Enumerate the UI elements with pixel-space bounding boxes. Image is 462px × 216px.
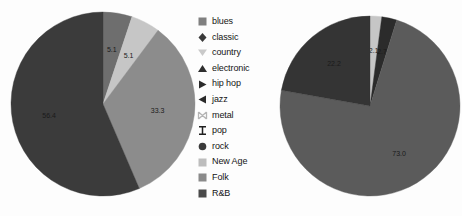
legend-item-label: metal (212, 108, 234, 124)
triangle-left-icon (197, 94, 208, 105)
pie-left-canvas: 5.15.133.356.4 (8, 0, 198, 216)
legend-item-folk[interactable]: Folk (197, 170, 279, 186)
pie-slice-value-label: 73.0 (392, 150, 406, 157)
pie-right-canvas: 2.12.773.022.2 (278, 0, 462, 216)
legend-item-label: blues (212, 14, 233, 30)
pie-slice-value-label: 22.2 (327, 60, 341, 67)
pie-slice-value-label: 56.4 (42, 112, 56, 119)
legend-item-hip-hop[interactable]: hip hop (197, 76, 279, 92)
circle-icon (197, 141, 208, 152)
legend-item-classic[interactable]: classic (197, 30, 279, 46)
legend-item-label: electronic (212, 61, 250, 77)
legend-item-electronic[interactable]: electronic (197, 61, 279, 77)
legend-item-blues[interactable]: blues (197, 14, 279, 30)
square-icon (197, 172, 208, 183)
legend-item-label: jazz (212, 92, 228, 108)
pie-slice-r-b[interactable] (281, 16, 370, 106)
hourglass-h-icon (197, 110, 208, 121)
legend-item-metal[interactable]: metal (197, 108, 279, 124)
pie-slice-value-label: 2.7 (377, 48, 387, 55)
square-icon (197, 16, 208, 27)
legend-item-label: rock (212, 139, 229, 155)
triangle-right-icon (197, 79, 208, 90)
legend-item-label: Folk (212, 170, 229, 186)
triangle-up-icon (197, 63, 208, 74)
legend-item-label: New Age (212, 154, 247, 170)
i-bar-icon (197, 125, 208, 136)
pie-chart-left: 5.15.133.356.4 (8, 0, 198, 216)
pie-slice-value-label: 33.3 (151, 107, 165, 114)
legend-item-jazz[interactable]: jazz (197, 92, 279, 108)
diamond-icon (197, 32, 208, 43)
pie-slice-value-label: 5.1 (124, 52, 134, 59)
legend: bluesclassiccountryelectronichip hopjazz… (197, 14, 279, 206)
legend-item-r-b[interactable]: R&B (197, 186, 279, 202)
legend-item-pop[interactable]: pop (197, 123, 279, 139)
legend-item-country[interactable]: country (197, 45, 279, 61)
square-icon (197, 188, 208, 199)
legend-item-new-age[interactable]: New Age (197, 154, 279, 170)
pie-slice-value-label: 5.1 (107, 46, 117, 53)
legend-item-label: R&B (212, 186, 230, 202)
triangle-down-icon (197, 47, 208, 58)
legend-item-label: country (212, 45, 241, 61)
legend-item-rock[interactable]: rock (197, 139, 279, 155)
pie-chart-figure: 5.15.133.356.4 bluesclassiccountryelectr… (0, 0, 462, 216)
legend-item-label: classic (212, 30, 238, 46)
legend-item-label: pop (212, 123, 227, 139)
legend-item-label: hip hop (212, 76, 241, 92)
pie-chart-right: 2.12.773.022.2 (278, 0, 462, 216)
square-icon (197, 157, 208, 168)
